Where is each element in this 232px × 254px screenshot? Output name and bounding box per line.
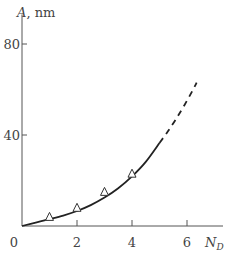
x-tick-label: 2: [73, 235, 81, 250]
y-axis-label: A, nm: [16, 5, 55, 20]
series-layer: [22, 83, 197, 226]
x-tick-label: 0: [10, 235, 18, 250]
x-ticks: 0246: [10, 220, 191, 250]
data-point-triangle: [101, 187, 109, 195]
y-ticks: 4080: [3, 37, 27, 143]
extrapolation-dashed-curve: [160, 83, 197, 143]
data-point-triangle: [73, 203, 81, 211]
fit-solid-curve: [22, 143, 160, 226]
x-tick-label: 6: [183, 235, 191, 250]
y-tick-label: 80: [3, 37, 20, 52]
data-point-triangle: [46, 212, 54, 220]
chart: 0246 4080 A, nm ND: [0, 0, 232, 254]
x-axis-label-variable: N: [204, 235, 217, 250]
axes: [22, 14, 223, 226]
y-axis-label-unit: , nm: [26, 5, 55, 20]
x-tick-label: 4: [128, 235, 136, 250]
x-axis-label: ND: [204, 235, 224, 252]
x-axis-label-subscript: D: [215, 242, 223, 252]
y-axis-label-variable: A: [16, 5, 26, 20]
y-tick-label: 40: [3, 128, 20, 143]
